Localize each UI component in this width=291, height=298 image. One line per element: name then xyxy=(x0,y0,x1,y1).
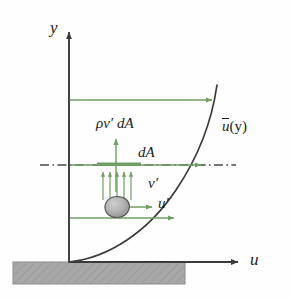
mean-velocity-profile-curve xyxy=(69,85,217,262)
mean-velocity-profile-label: u(y) xyxy=(222,119,247,134)
figure-container: y u ρv′ dA dA u(y) v′ u′ xyxy=(0,0,291,298)
x-axis-label: u xyxy=(250,251,259,268)
v-prime-label: v′ xyxy=(148,176,158,191)
profile-argument: (y) xyxy=(230,118,248,134)
fluid-particle xyxy=(105,197,129,218)
u-prime-label: u′ xyxy=(158,196,169,211)
y-axis-label: y xyxy=(50,19,58,36)
area-element-label: dA xyxy=(138,145,155,160)
wall-surface xyxy=(13,262,185,284)
u-bar-glyph: u xyxy=(222,119,230,134)
momentum-flux-label: ρv′ dA xyxy=(96,116,134,131)
flux-arrows-group xyxy=(103,172,131,200)
